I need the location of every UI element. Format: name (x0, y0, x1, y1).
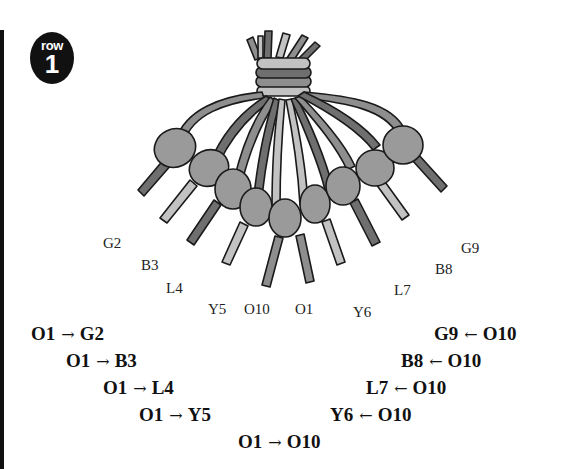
right-arrow-icon: → (61, 325, 74, 344)
instruction-from: O1 (66, 350, 90, 371)
strand-label-b8: B8 (435, 262, 453, 277)
instruction-to: G2 (80, 323, 104, 344)
right-arrow-icon: → (169, 406, 182, 425)
strand-label-l7: L7 (394, 283, 411, 298)
strand-label-o1: O1 (295, 302, 313, 317)
instruction-right-3: L7←O10 (366, 378, 446, 398)
wrapped-head (256, 58, 311, 96)
right-arrow-icon: → (268, 433, 281, 452)
instruction-to: O10 (287, 431, 321, 452)
instruction-to: Y5 (188, 404, 211, 425)
strand-label-y6: Y6 (353, 305, 371, 320)
instruction-from: O10 (378, 404, 412, 425)
instruction-to: G9 (434, 323, 458, 344)
bracelet-knot-illustration (0, 0, 580, 469)
instruction-to: B3 (115, 350, 137, 371)
instruction-left-2: O1→B3 (66, 351, 137, 371)
strand-label-y5: Y5 (208, 302, 226, 317)
strand-label-b3: B3 (141, 258, 159, 273)
instruction-to: B8 (401, 350, 423, 371)
instruction-from: O10 (483, 323, 517, 344)
knots (148, 122, 423, 237)
instruction-right-2: B8←O10 (401, 351, 481, 371)
strand-label-g2: G2 (103, 236, 121, 251)
instruction-from: O1 (139, 404, 163, 425)
left-arrow-icon: ← (429, 352, 442, 371)
left-arrow-icon: ← (359, 406, 372, 425)
instruction-from: O10 (448, 350, 482, 371)
left-arrow-icon: ← (394, 379, 407, 398)
instruction-to: Y6 (330, 404, 353, 425)
instruction-to: L4 (152, 377, 174, 398)
right-arrow-icon: → (133, 379, 146, 398)
instruction-left-3: O1→L4 (103, 378, 174, 398)
strand-label-l4: L4 (166, 281, 183, 296)
instruction-left-1: O1→G2 (31, 324, 104, 344)
instruction-from: O1 (103, 377, 127, 398)
instruction-to: L7 (366, 377, 388, 398)
left-arrow-icon: ← (464, 325, 477, 344)
strand-label-o10: O10 (244, 302, 270, 317)
instruction-right-1: G9←O10 (434, 324, 516, 344)
instruction-center: O1→O10 (238, 432, 320, 452)
strand-label-g9: G9 (461, 241, 479, 256)
instruction-from: O1 (238, 431, 262, 452)
instruction-right-4: Y6←O10 (330, 405, 411, 425)
instruction-from: O1 (31, 323, 55, 344)
instruction-from: O10 (413, 377, 447, 398)
right-arrow-icon: → (96, 352, 109, 371)
instruction-left-4: O1→Y5 (139, 405, 211, 425)
